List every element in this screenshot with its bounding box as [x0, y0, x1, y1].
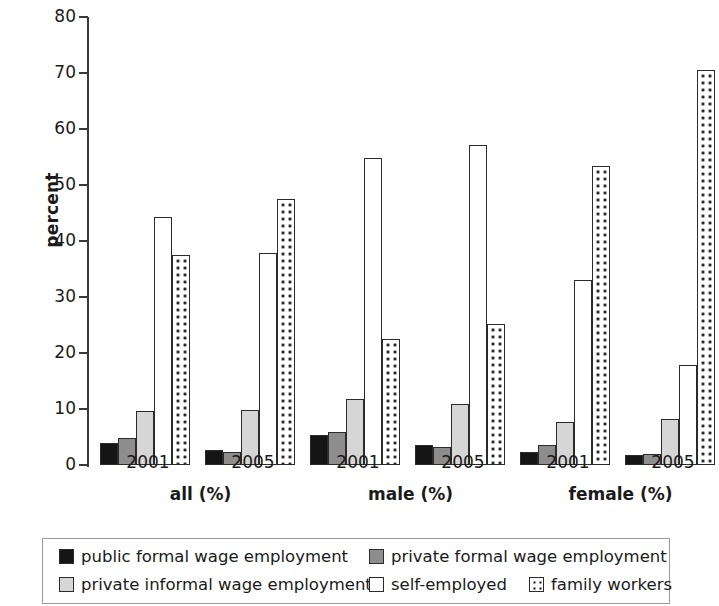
bar-group	[415, 17, 511, 465]
x-axis-year-label: 2005	[618, 452, 719, 472]
x-axis-group-label: female (%)	[521, 484, 719, 504]
y-axis-tick-label-wrap: 50	[0, 176, 76, 177]
bar	[364, 158, 382, 465]
bar-cluster	[520, 17, 610, 465]
legend-swatch-icon	[369, 577, 384, 592]
y-axis-tick-label: 40	[30, 232, 76, 249]
y-axis-tick	[79, 464, 88, 466]
y-axis-title: percent	[42, 150, 62, 270]
bar	[592, 166, 610, 465]
bar-cluster	[205, 17, 295, 465]
y-axis-tick-label: 20	[30, 344, 76, 361]
bar-cluster	[415, 17, 505, 465]
y-axis-tick-label-wrap: 0	[0, 456, 76, 457]
y-axis-tick	[79, 128, 88, 130]
legend-swatch-icon	[59, 549, 74, 564]
legend-swatch-icon	[369, 549, 384, 564]
y-axis-tick	[79, 296, 88, 298]
legend-item: self-employed	[369, 576, 507, 593]
y-axis-tick	[79, 72, 88, 74]
legend-label: family workers	[551, 576, 672, 593]
y-axis-tick-label: 30	[30, 288, 76, 305]
bar-group	[205, 17, 301, 465]
bar	[487, 324, 505, 465]
x-axis-group-label: male (%)	[311, 484, 511, 504]
bar-group	[520, 17, 616, 465]
legend-item: public formal wage employment	[59, 548, 348, 565]
y-axis-tick-label: 0	[30, 456, 76, 473]
y-axis-tick	[79, 240, 88, 242]
bar-cluster	[625, 17, 715, 465]
bar	[154, 217, 172, 465]
bar-group	[625, 17, 719, 465]
legend-swatch-icon	[529, 577, 544, 592]
y-axis-tick-label-wrap: 10	[0, 400, 76, 401]
y-axis-tick	[79, 16, 88, 18]
y-axis-tick-label-wrap: 70	[0, 64, 76, 65]
legend-label: self-employed	[391, 576, 507, 593]
y-axis-tick-label: 80	[30, 8, 76, 25]
y-axis-tick-label: 10	[30, 400, 76, 417]
bar	[574, 280, 592, 465]
y-axis-tick-label-wrap: 20	[0, 344, 76, 345]
legend-label: private informal wage employment	[81, 576, 372, 593]
bar-group	[310, 17, 406, 465]
bar-cluster	[100, 17, 190, 465]
bar	[469, 145, 487, 465]
y-axis-tick-label-wrap: 80	[0, 8, 76, 9]
legend-label: public formal wage employment	[81, 548, 348, 565]
chart-legend: public formal wage employmentprivate for…	[42, 538, 670, 604]
bar	[679, 365, 697, 465]
legend-label: private formal wage employment	[391, 548, 667, 565]
x-axis-group-label: all (%)	[101, 484, 301, 504]
y-axis-tick	[79, 408, 88, 410]
bar	[259, 253, 277, 465]
y-axis-tick	[79, 184, 88, 186]
bar	[697, 70, 715, 465]
legend-item: private formal wage employment	[369, 548, 667, 565]
y-axis-tick-label: 50	[30, 176, 76, 193]
x-axis-year-label: 2001	[513, 452, 623, 472]
bar-group	[100, 17, 196, 465]
bar-cluster	[310, 17, 400, 465]
y-axis-tick	[79, 352, 88, 354]
y-axis-tick-label-wrap: 60	[0, 120, 76, 121]
plot-area	[88, 17, 666, 465]
y-axis-tick-label: 60	[30, 120, 76, 137]
x-axis-year-label: 2005	[198, 452, 308, 472]
bar	[382, 339, 400, 465]
legend-swatch-icon	[59, 577, 74, 592]
y-axis-tick-label: 70	[30, 64, 76, 81]
legend-item: private informal wage employment	[59, 576, 372, 593]
bar	[172, 255, 190, 465]
x-axis-year-label: 2005	[408, 452, 518, 472]
legend-item: family workers	[529, 576, 672, 593]
y-axis-tick-label-wrap: 30	[0, 288, 76, 289]
x-axis-year-label: 2001	[93, 452, 203, 472]
y-axis-tick-label-wrap: 40	[0, 232, 76, 233]
bar	[277, 199, 295, 465]
x-axis-year-label: 2001	[303, 452, 413, 472]
